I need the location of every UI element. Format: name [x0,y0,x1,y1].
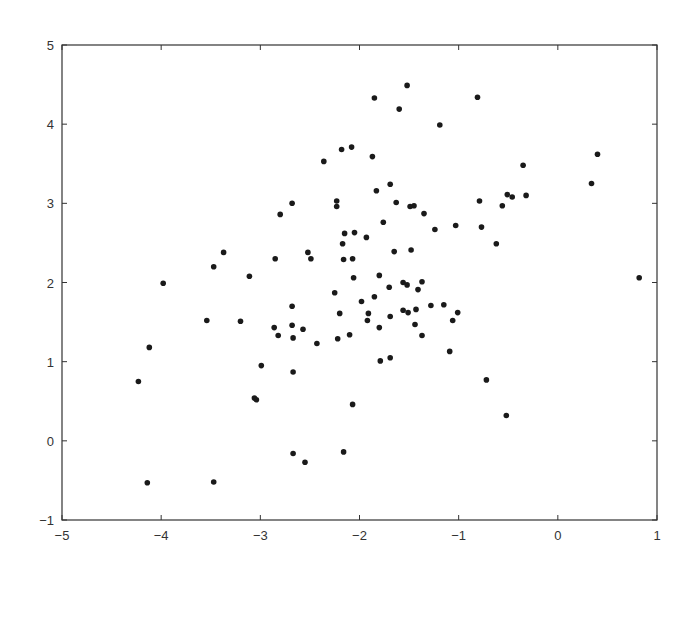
y-tick-label: 0 [47,434,54,449]
data-point [404,282,410,288]
data-point [370,154,376,160]
data-point [211,479,217,485]
data-point [419,333,425,339]
x-tick-label: 1 [653,528,660,543]
data-point [404,83,410,89]
data-point [359,299,365,305]
data-point [447,349,453,355]
data-point [366,311,372,317]
data-point [351,275,357,281]
data-point [405,310,411,316]
data-point [342,231,348,237]
data-point [391,249,397,255]
data-point [509,194,515,200]
data-point [412,322,418,328]
data-point [377,273,383,279]
x-tick-label: −2 [352,528,367,543]
data-point [523,193,529,199]
y-tick-label: 5 [47,38,54,53]
data-point [393,200,399,206]
data-point [349,144,355,150]
data-point [147,345,153,351]
data-point [300,326,306,332]
data-point [350,256,356,262]
y-tick-label: 3 [47,196,54,211]
data-point [339,147,345,153]
data-point [221,250,227,256]
data-point [589,181,595,187]
data-point [419,279,425,285]
data-point [259,363,265,369]
data-point [332,290,338,296]
data-point [277,212,283,218]
data-point [387,314,393,320]
data-point [378,358,384,364]
data-point [290,335,296,341]
data-point [415,287,421,293]
data-point [364,235,370,241]
data-points [136,83,642,486]
plot-border [62,45,657,520]
data-point [211,264,217,270]
x-tick-label: −3 [253,528,268,543]
data-point [340,241,346,247]
data-point [396,106,402,112]
data-point [160,281,166,287]
data-point [247,273,253,279]
data-point [450,318,456,324]
data-point [504,413,510,419]
data-point [479,224,485,230]
data-point [494,241,500,247]
data-point [421,211,427,217]
data-point [520,163,526,169]
data-point [455,310,461,316]
scatter-chart: −5−4−3−2−101 −1012345 [0,0,694,636]
data-point [428,303,434,309]
data-point [381,220,387,226]
x-tick-label: −4 [154,528,169,543]
data-point [453,223,459,229]
data-point [334,204,340,210]
data-point [387,182,393,188]
data-point [372,294,378,300]
data-point [437,122,443,128]
data-point [408,247,414,253]
data-point [386,285,392,291]
data-point [305,250,311,256]
data-point [441,302,447,308]
data-point [341,449,347,455]
data-point [308,256,314,262]
data-point [314,341,320,347]
y-tick-label: 2 [47,276,54,291]
data-point [321,159,327,165]
data-point [387,355,393,361]
data-point [377,325,383,331]
data-point [372,95,378,101]
data-point [136,379,142,385]
data-point [374,188,380,194]
data-point [335,336,341,342]
x-axis: −5−4−3−2−101 [55,45,661,543]
y-tick-label: −1 [39,513,54,528]
data-point [290,451,296,457]
y-axis: −1012345 [39,38,657,528]
data-point [365,318,371,324]
data-point [475,95,481,101]
data-point [341,257,347,263]
data-point [505,192,511,198]
y-tick-label: 4 [47,117,54,132]
x-tick-label: −1 [451,528,466,543]
data-point [411,203,417,209]
data-point [272,256,278,262]
data-point [271,325,277,331]
data-point [289,304,295,310]
data-point [290,369,296,375]
data-point [413,307,419,313]
data-point [400,307,406,313]
data-point [254,397,260,403]
data-point [204,318,210,324]
data-point [477,198,483,204]
data-point [350,402,356,408]
data-point [636,275,642,281]
data-point [337,311,343,317]
